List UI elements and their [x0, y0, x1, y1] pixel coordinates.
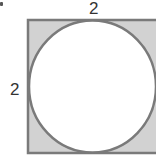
inscribed-circle: [29, 21, 156, 153]
left-side-length-label: 2: [10, 81, 19, 98]
top-side-length-label: 2: [89, 0, 98, 17]
figure-graphic: [0, 0, 156, 160]
square-inscribed-circle-figure: 2 2: [0, 0, 156, 160]
